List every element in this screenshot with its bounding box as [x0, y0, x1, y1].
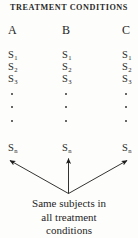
subject-subscript: 3 — [68, 78, 71, 85]
subject-base: S — [8, 49, 14, 60]
vertical-ellipsis-dot — [11, 120, 13, 122]
caption-line-2: all treatment — [0, 211, 138, 225]
vertical-ellipsis-dot — [125, 120, 127, 122]
caption-line-3: conditions — [0, 224, 138, 238]
column-header-a: A — [8, 24, 17, 36]
subject-label: S3 — [122, 74, 131, 86]
subject-label: S2 — [122, 62, 131, 74]
repeated-measures-design-figure: TREATMENT CONDITIONS A B C S1 S2 S3 Sn S… — [0, 0, 138, 238]
subject-base: S — [8, 61, 14, 72]
subject-label: S2 — [62, 62, 71, 74]
vertical-ellipsis-dot — [11, 93, 13, 95]
subject-base: S — [122, 61, 128, 72]
subject-subscript: 1 — [128, 54, 131, 61]
subject-subscript: 3 — [128, 78, 131, 85]
subject-label: S1 — [122, 50, 131, 62]
subject-subscript: 2 — [128, 66, 131, 73]
subject-base: S — [8, 73, 14, 84]
subject-subscript: 2 — [14, 66, 17, 73]
subject-label: S3 — [62, 74, 71, 86]
subject-base: S — [62, 61, 68, 72]
vertical-ellipsis-dot — [65, 106, 67, 108]
figure-caption: Same subjects in all treatment condition… — [0, 197, 138, 238]
arrow-to-condition-a — [10, 161, 69, 194]
subject-subscript: 2 — [68, 66, 71, 73]
vertical-ellipsis-dot — [125, 93, 127, 95]
column-header-b: B — [62, 24, 70, 36]
figure-title: TREATMENT CONDITIONS — [0, 3, 138, 12]
arrow-to-condition-c — [69, 161, 128, 194]
subject-label: S1 — [8, 50, 17, 62]
caption-line-1: Same subjects in — [0, 197, 138, 211]
vertical-ellipsis-dot — [65, 120, 67, 122]
subject-subscript: 1 — [14, 54, 17, 61]
vertical-ellipsis-dot — [65, 93, 67, 95]
column-header-c: C — [122, 24, 130, 36]
subject-subscript: 3 — [14, 78, 17, 85]
subject-base: S — [122, 49, 128, 60]
subject-label: S3 — [8, 74, 17, 86]
subject-base: S — [122, 73, 128, 84]
subject-base: S — [62, 49, 68, 60]
vertical-ellipsis-dot — [11, 106, 13, 108]
subject-base: S — [62, 73, 68, 84]
subject-subscript: 1 — [68, 54, 71, 61]
subject-label: S1 — [62, 50, 71, 62]
vertical-ellipsis-dot — [125, 106, 127, 108]
arrow-group — [0, 150, 138, 198]
subject-label: S2 — [8, 62, 17, 74]
